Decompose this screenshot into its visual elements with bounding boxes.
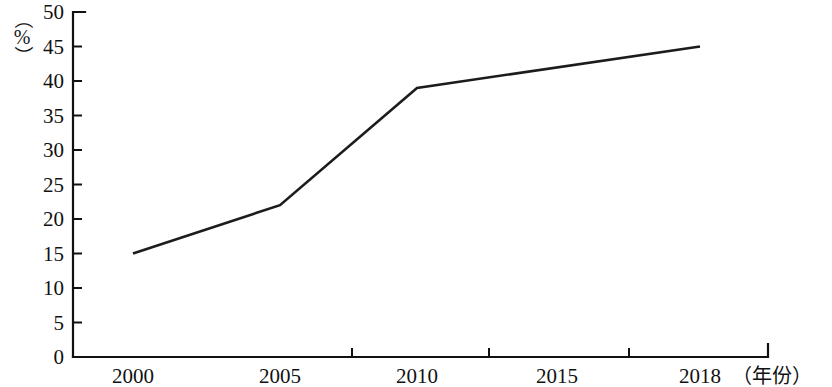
y-axis-tick-marks [73,47,82,323]
y-axis: 05101520253035404550 [43,0,85,369]
line-chart: （ % ） 05101520253035404550 2000200520102… [0,0,832,387]
x-axis-tick-marks [352,348,629,357]
x-axis-tick-label: 2005 [259,364,301,387]
x-axis-tick-label: 2018 [679,364,721,387]
x-axis: 20002005201020152018 （年份） [73,344,812,387]
y-axis-tick-label: 0 [54,345,65,369]
data-series-group [133,47,700,254]
y-axis-tick-label: 15 [43,242,64,266]
chart-canvas: 05101520253035404550 2000200520102015201… [0,0,832,387]
y-axis-tick-label: 20 [43,207,64,231]
y-axis-tick-label: 40 [43,69,64,93]
y-axis-tick-label: 45 [43,35,64,59]
y-axis-tick-label: 10 [43,276,64,300]
y-axis-tick-label: 25 [43,173,64,197]
x-axis-tick-label: 2010 [396,364,438,387]
x-axis-tick-label: 2000 [112,364,154,387]
y-axis-tick-label: 50 [43,0,64,24]
y-axis-tick-labels: 05101520253035404550 [43,0,64,369]
y-axis-tick-label: 35 [43,104,64,128]
x-axis-tick-labels: 20002005201020152018 [112,364,721,387]
y-axis-tick-label: 30 [43,138,64,162]
x-axis-caption-label: （年份） [732,364,812,387]
x-axis-line [73,344,768,357]
x-axis-tick-label: 2015 [536,364,578,387]
y-axis-tick-label: 5 [54,311,65,335]
series-line-path [133,47,700,254]
